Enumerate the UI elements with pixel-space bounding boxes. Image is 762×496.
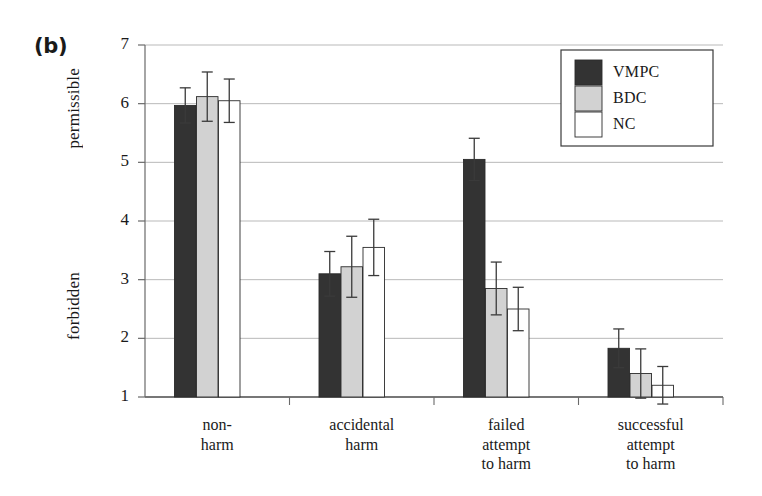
legend-swatch-vmpc: [575, 60, 602, 85]
bar-vmpc-0: [175, 105, 197, 397]
bar-nc-0: [219, 101, 241, 397]
y-axis-tick-label: 6: [103, 93, 129, 113]
y-axis-tick-label: 3: [103, 269, 129, 289]
y-axis-tick-label: 5: [103, 151, 129, 171]
figure-panel-b: (b) permissible forbidden 1234567 non- h…: [0, 0, 762, 496]
panel-label: (b): [34, 34, 67, 58]
legend-label-bdc: BDC: [613, 89, 647, 107]
legend-swatch-nc: [575, 112, 602, 137]
legend-label-vmpc: VMPC: [613, 63, 660, 81]
y-axis-tick-label: 2: [103, 327, 129, 347]
y-axis-top-label: permissible: [64, 68, 84, 149]
x-axis-category-label: successful attempt to harm: [576, 415, 726, 474]
legend-label-nc: NC: [613, 115, 636, 133]
y-axis-bottom-label: forbidden: [64, 272, 84, 340]
y-axis-tick-label: 4: [103, 210, 129, 230]
x-axis-category-label: accidental harm: [287, 415, 437, 454]
bar-vmpc-2: [464, 159, 486, 397]
bar-bdc-0: [197, 97, 219, 397]
y-axis-tick-label: 7: [103, 34, 129, 54]
x-axis-category-label: failed attempt to harm: [431, 415, 581, 474]
y-axis-tick-label: 1: [103, 386, 129, 406]
x-axis-category-label: non- harm: [142, 415, 292, 454]
legend-swatch-bdc: [575, 86, 602, 111]
